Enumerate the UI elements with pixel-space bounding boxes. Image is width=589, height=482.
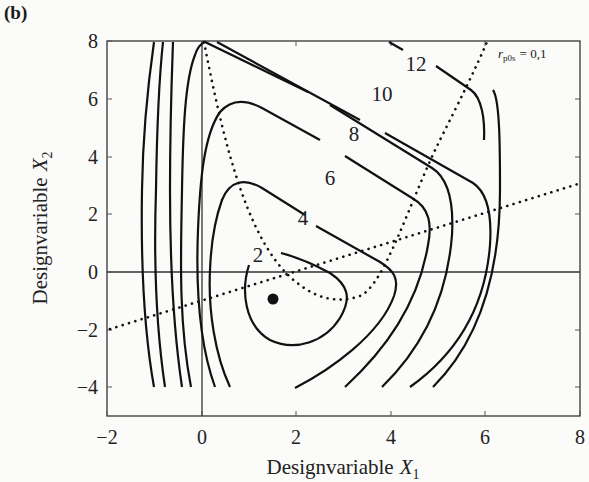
contour-label: 8 [349,122,360,146]
y-tick-label: 2 [88,203,98,225]
contour-level-8-right [330,105,452,387]
y-tick-labels: 8 6 4 2 0 −2 −4 [77,30,98,398]
contour-label: 10 [372,82,393,106]
contour-labels: 2 4 6 8 10 12 [253,52,427,267]
contour-label: 4 [298,206,309,230]
y-tick-label: −2 [77,319,98,341]
x-tick-label: −2 [96,426,117,448]
contour-outer-left [142,42,154,387]
x-tick-label: 6 [480,426,490,448]
contour-label: 6 [325,166,336,190]
minimum-point-marker [268,294,279,305]
contour-level-12-left-branch [155,42,165,387]
y-tick-label: 8 [88,30,98,52]
contour-level-8-left [181,42,308,387]
y-tick-label: 4 [88,146,98,168]
contour-lines [142,42,500,388]
y-tick-label: 0 [88,261,98,283]
y-axis-label: DesignvariableX2 [28,152,55,305]
x-axis-label: DesignvariableX1 [267,455,420,482]
y-tick-label: −4 [77,376,98,398]
y-tick-label: 6 [88,88,98,110]
contour-level-10-left-branch [170,42,182,387]
x-tick-label: 4 [386,426,396,448]
x-tick-label: 8 [575,426,585,448]
x-tick-label: 2 [291,426,301,448]
x-tick-label: 0 [197,426,207,448]
contour-label: 12 [406,52,427,76]
contour-level-4-left [210,182,305,387]
annotation-rp0s: rp0s= 0,1 [498,46,546,63]
y-ticks [107,41,580,387]
contour-plot: −2 0 2 4 6 8 8 6 4 2 0 −2 −4 Designvaria… [0,0,589,482]
x-tick-labels: −2 0 2 4 6 8 [96,426,585,448]
contour-level-10-top [217,42,360,120]
contour-label: 2 [253,243,264,267]
contour-level-12-right-a [436,66,484,140]
constraint-parabola-dotted [204,42,487,300]
